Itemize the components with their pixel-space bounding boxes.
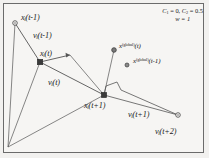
marker-x-global-t bbox=[112, 48, 117, 53]
label-x-t-minus-1: xi(t-1) bbox=[21, 14, 40, 22]
trajectory-plot bbox=[0, 0, 209, 158]
parameter-annotation: C1 = 0, C2 = 0.5 w = 1 bbox=[162, 7, 203, 23]
label-v-t-plus-2: vi(t+2) bbox=[155, 128, 176, 136]
marker-v-t-plus-2-endpoint-core bbox=[177, 114, 178, 115]
label-x-t: xi(t) bbox=[40, 50, 52, 58]
label-v-t-minus-1: vi(t-1) bbox=[33, 32, 52, 40]
c1-value: = 0, bbox=[169, 7, 182, 14]
label-x-global-t: x(global)(t) bbox=[119, 43, 141, 50]
label-v-t: vi(t) bbox=[48, 79, 60, 87]
path-arrowtip-to-x-t-plus-1 bbox=[70, 55, 104, 95]
label-x-t-plus-1: xi(t+1) bbox=[84, 102, 105, 110]
marker-x-global-t-minus-1 bbox=[125, 63, 129, 67]
path-origin-to-x-t bbox=[8, 62, 40, 147]
parameter-line-w: w = 1 bbox=[162, 15, 203, 23]
arrowhead-v-t bbox=[66, 53, 71, 58]
pso-trajectory-figure: C1 = 0, C2 = 0.5 w = 1 xi(t-1) vi(t-1) x… bbox=[0, 0, 209, 158]
marker-x-t-minus-1-core bbox=[14, 22, 15, 23]
parameter-line-c: C1 = 0, C2 = 0.5 bbox=[162, 7, 203, 15]
marker-x-t-plus-1 bbox=[101, 92, 106, 97]
path-origin-to-x-t-minus-1 bbox=[8, 23, 15, 147]
marker-x-t bbox=[37, 59, 42, 64]
label-v-t-plus-1: vi(t+1) bbox=[128, 111, 149, 119]
label-x-global-t-minus-1: x(global)(t-1) bbox=[133, 58, 160, 65]
path-x-t-minus-1-to-x-t bbox=[15, 23, 40, 62]
c2-value: = 0.5 bbox=[188, 7, 203, 14]
